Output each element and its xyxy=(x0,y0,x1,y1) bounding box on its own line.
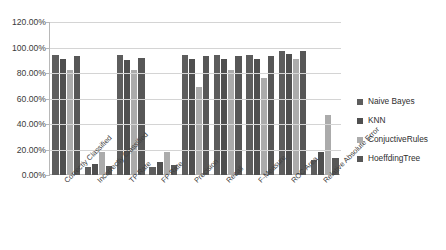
legend-item: ConjuctiveRules xyxy=(357,130,445,149)
legend-item: KNN xyxy=(357,111,445,130)
bar xyxy=(85,167,91,175)
bar xyxy=(189,59,195,175)
bar xyxy=(131,70,137,175)
legend-swatch-icon xyxy=(357,156,363,162)
y-axis-tick xyxy=(46,124,50,125)
bar xyxy=(74,56,80,175)
y-axis-tick xyxy=(46,48,50,49)
bar xyxy=(92,164,98,175)
legend-swatch-icon xyxy=(357,137,363,143)
gridline xyxy=(50,124,341,125)
legend-swatch-icon xyxy=(357,118,363,124)
y-axis-labels: 0.00%20.00%40.00%60.00%80.00%100.00%120.… xyxy=(0,22,46,175)
y-axis-tick-label: 20.00% xyxy=(0,145,46,154)
legend-item: Naive Bayes xyxy=(357,92,445,111)
bar xyxy=(235,56,241,175)
legend-label: HoeffdingTree xyxy=(368,154,420,162)
y-axis-tick-label: 100.00% xyxy=(0,43,46,52)
legend-item: HoeffdingTree xyxy=(357,149,445,168)
chart-legend: Naive BayesKNNConjuctiveRulesHoeffdingTr… xyxy=(357,92,445,168)
y-axis-tick-label: 60.00% xyxy=(0,94,46,103)
y-axis-tick xyxy=(46,22,50,23)
y-axis-tick-label: 40.00% xyxy=(0,120,46,129)
legend-swatch-icon xyxy=(357,99,363,105)
y-axis-tick xyxy=(46,99,50,100)
bar-chart: 0.00%20.00%40.00%60.00%80.00%100.00%120.… xyxy=(0,0,446,250)
bar xyxy=(300,51,306,175)
gridline xyxy=(50,22,341,23)
bar xyxy=(293,59,299,175)
bar xyxy=(157,162,163,175)
x-axis-labels: Correctly ClassifiedIncorrectly Classifi… xyxy=(49,176,340,250)
bar xyxy=(261,78,267,175)
bar xyxy=(149,167,155,175)
y-axis-tick-label: 120.00% xyxy=(0,18,46,27)
y-axis-tick xyxy=(46,150,50,151)
bar xyxy=(221,59,227,175)
bar xyxy=(196,87,202,175)
bar xyxy=(318,152,324,175)
bar xyxy=(268,56,274,175)
bar xyxy=(228,70,234,175)
bar xyxy=(60,59,66,175)
legend-label: Naive Bayes xyxy=(368,97,415,105)
legend-label: KNN xyxy=(368,116,386,124)
y-axis-tick-label: 0.00% xyxy=(0,171,46,180)
y-axis-tick-label: 80.00% xyxy=(0,69,46,78)
gridline xyxy=(50,48,341,49)
bar xyxy=(138,58,144,175)
gridline xyxy=(50,99,341,100)
bar xyxy=(67,70,73,175)
bar xyxy=(254,59,260,175)
y-axis-tick xyxy=(46,73,50,74)
gridline xyxy=(50,73,341,74)
bar xyxy=(203,56,209,175)
legend-label: ConjuctiveRules xyxy=(368,135,428,143)
